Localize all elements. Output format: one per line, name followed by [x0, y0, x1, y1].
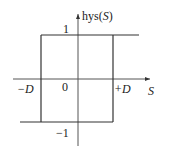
- label-minus-one: −1: [56, 126, 69, 140]
- label-origin: 0: [62, 80, 68, 94]
- x-axis-label: S: [148, 84, 154, 98]
- label-minus-d: −D: [17, 82, 34, 96]
- hysteresis-diagram: hys(S) 1 0 −D +D S −1: [0, 0, 174, 157]
- label-plus-d: +D: [114, 82, 131, 96]
- y-axis-label: hys(S): [82, 9, 113, 23]
- label-one: 1: [63, 22, 69, 36]
